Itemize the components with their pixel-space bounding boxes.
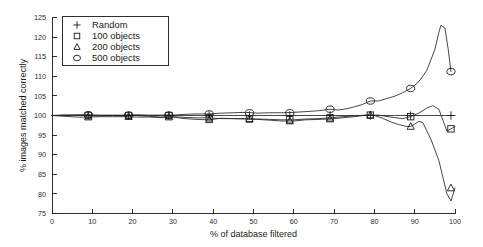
- y-tick-label: 80: [38, 190, 46, 199]
- legend-label: 100 objects: [92, 30, 140, 41]
- x-tick-label: 80: [370, 217, 378, 226]
- y-tick-label: 95: [38, 131, 46, 140]
- x-axis-title: % of database filtered: [210, 229, 297, 239]
- y-tick-label: 100: [34, 111, 46, 120]
- x-tick-label: 0: [50, 217, 54, 226]
- x-tick-label: 70: [330, 217, 338, 226]
- x-tick-label: 10: [88, 217, 96, 226]
- x-tick-label: 40: [209, 217, 217, 226]
- x-tick-label: 90: [411, 217, 419, 226]
- chart-legend: Random100 objects200 objects500 objects: [62, 16, 168, 65]
- x-tick-label: 30: [169, 217, 177, 226]
- y-tick-label: 105: [34, 92, 46, 101]
- legend-label: 200 objects: [92, 41, 140, 52]
- x-tick-label: 100: [449, 217, 461, 226]
- y-tick-label: 75: [38, 209, 46, 218]
- x-tick-label: 60: [290, 217, 298, 226]
- x-tick-label: 50: [250, 217, 258, 226]
- y-tick-label: 90: [38, 150, 46, 159]
- legend-label: Random: [92, 19, 128, 30]
- line-chart: 7580859095100105110115120125010203040506…: [0, 0, 483, 247]
- y-tick-label: 85: [38, 170, 46, 179]
- y-tick-label: 120: [34, 33, 46, 42]
- x-tick-label: 20: [129, 217, 137, 226]
- legend-label: 500 objects: [92, 52, 140, 63]
- y-axis-title: % images matched correctly: [18, 58, 28, 172]
- y-tick-label: 115: [35, 52, 46, 61]
- y-tick-label: 125: [34, 13, 46, 22]
- y-tick-label: 110: [35, 72, 46, 81]
- chart-figure: 7580859095100105110115120125010203040506…: [0, 0, 483, 247]
